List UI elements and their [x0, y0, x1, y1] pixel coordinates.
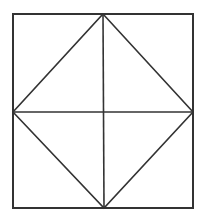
figure-background: [0, 0, 203, 216]
geometric-figure: Geometric line drawing: a square contain…: [0, 0, 203, 216]
vertical-median-line: [103, 14, 104, 208]
